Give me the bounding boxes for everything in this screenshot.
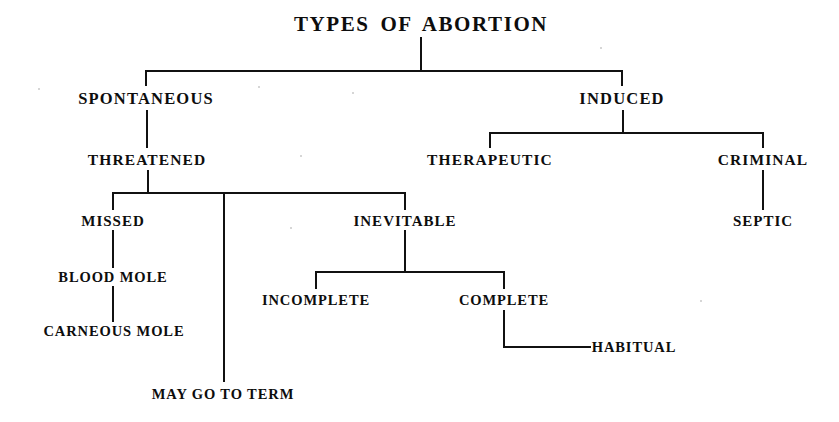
scan-speck: [600, 47, 602, 49]
scan-speck: [38, 88, 40, 90]
edge-blood-mole-carneous-mole: [112, 286, 114, 322]
edge-threatened-to-inevitable: [404, 192, 406, 210]
edge-root-to-induced: [621, 70, 623, 86]
scan-speck: [352, 92, 354, 94]
node-threatened: THREATENED: [88, 152, 206, 168]
diagram-title: TYPES OF ABORTION: [294, 14, 548, 35]
edge-inevitable-to-incomplete: [315, 271, 317, 289]
edge-root-to-spontaneous: [145, 70, 147, 86]
edge-induced-to-criminal: [762, 132, 764, 148]
node-incomplete: INCOMPLETE: [262, 293, 370, 308]
edge-root-bar: [145, 70, 623, 72]
edge-induced-bar: [489, 132, 763, 134]
edge-induced-stem: [622, 110, 624, 133]
edge-spontaneous-threatened: [146, 110, 148, 148]
edge-threatened-to-missed: [112, 192, 114, 210]
node-therapeutic: THERAPEUTIC: [427, 152, 553, 168]
edge-missed-blood-mole: [112, 230, 114, 268]
scan-speck: [258, 86, 260, 88]
node-habitual: HABITUAL: [592, 340, 677, 355]
edge-root-stem: [420, 37, 422, 71]
node-inevitable: INEVITABLE: [353, 214, 456, 229]
node-missed: MISSED: [81, 214, 145, 229]
edge-threatened-bar: [112, 192, 405, 194]
edge-complete-habitual-drop: [503, 310, 505, 347]
edge-complete-habitual-run: [503, 346, 591, 348]
node-induced: INDUCED: [579, 91, 664, 108]
scan-speck: [290, 227, 292, 229]
node-blood-mole: BLOOD MOLE: [58, 270, 167, 285]
scan-speck: [300, 155, 302, 157]
edge-inevitable-stem: [404, 230, 406, 272]
edge-threatened-to-may-go-to-term: [223, 192, 225, 382]
diagram-canvas: TYPES OF ABORTION SPONTANEOUS INDUCED TH…: [0, 0, 839, 422]
scan-speck: [700, 300, 702, 302]
node-may-go-to-term: MAY GO TO TERM: [152, 387, 294, 402]
edge-induced-to-therapeutic: [489, 132, 491, 148]
edge-inevitable-to-complete: [503, 271, 505, 289]
edge-criminal-septic: [762, 170, 764, 210]
node-complete: COMPLETE: [459, 293, 549, 308]
node-criminal: CRIMINAL: [718, 152, 809, 168]
node-septic: SEPTIC: [733, 214, 793, 229]
node-spontaneous: SPONTANEOUS: [78, 91, 214, 108]
edge-inevitable-bar: [315, 271, 504, 273]
edge-threatened-stem: [147, 170, 149, 193]
node-carneous-mole: CARNEOUS MOLE: [43, 324, 184, 339]
